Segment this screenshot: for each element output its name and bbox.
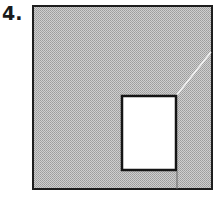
inner-white-rectangle bbox=[122, 96, 176, 170]
geometry-figure bbox=[0, 0, 221, 203]
